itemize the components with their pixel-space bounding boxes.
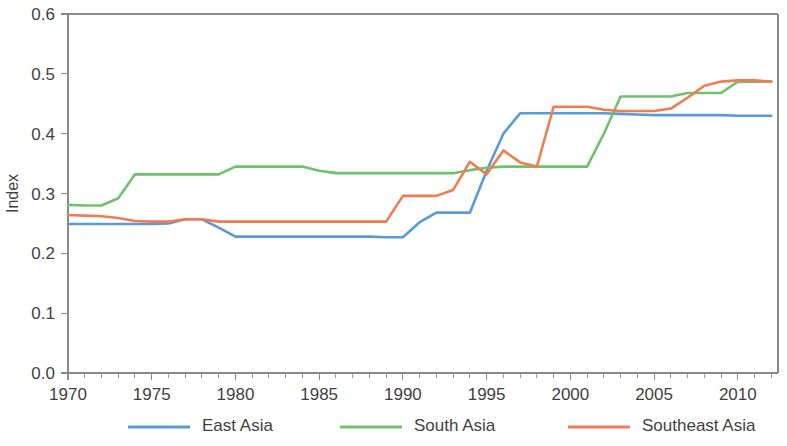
x-tick-label: 1985 bbox=[300, 385, 338, 404]
x-tick-label: 1995 bbox=[468, 385, 506, 404]
series-line-southeast-asia bbox=[68, 80, 771, 221]
x-axis-tick-labels: 197019751980198519901995200020052010 bbox=[49, 385, 757, 404]
series-line-south-asia bbox=[68, 82, 771, 206]
chart-container: 0.00.10.20.30.40.50.6 197019751980198519… bbox=[0, 0, 787, 446]
legend-label-east-asia: East Asia bbox=[202, 416, 273, 435]
y-tick-label: 0.1 bbox=[31, 304, 55, 323]
y-tick-label: 0.5 bbox=[31, 65, 55, 84]
x-tick-label: 2010 bbox=[719, 385, 757, 404]
x-tick-label: 2000 bbox=[551, 385, 589, 404]
x-tick-label: 2005 bbox=[635, 385, 673, 404]
y-tick-label: 0.3 bbox=[31, 185, 55, 204]
y-tick-label: 0.0 bbox=[31, 364, 55, 383]
chart-legend: East AsiaSouth AsiaSoutheast Asia bbox=[128, 416, 756, 435]
chart-frame bbox=[68, 14, 778, 373]
x-tick-label: 1980 bbox=[217, 385, 255, 404]
x-tick-label: 1975 bbox=[133, 385, 171, 404]
y-tick-label: 0.2 bbox=[31, 244, 55, 263]
y-tick-label: 0.4 bbox=[31, 125, 55, 144]
line-chart: 0.00.10.20.30.40.50.6 197019751980198519… bbox=[0, 0, 787, 446]
x-tick-label: 1990 bbox=[384, 385, 422, 404]
x-tick-label: 1970 bbox=[49, 385, 87, 404]
y-axis-tick-labels: 0.00.10.20.30.40.50.6 bbox=[31, 5, 55, 383]
legend-label-south-asia: South Asia bbox=[414, 416, 496, 435]
y-axis-title: Index bbox=[4, 174, 21, 213]
y-tick-label: 0.6 bbox=[31, 5, 55, 24]
data-series-group bbox=[68, 80, 771, 237]
legend-label-southeast-asia: Southeast Asia bbox=[642, 416, 756, 435]
y-axis-title-text: Index bbox=[4, 174, 21, 213]
